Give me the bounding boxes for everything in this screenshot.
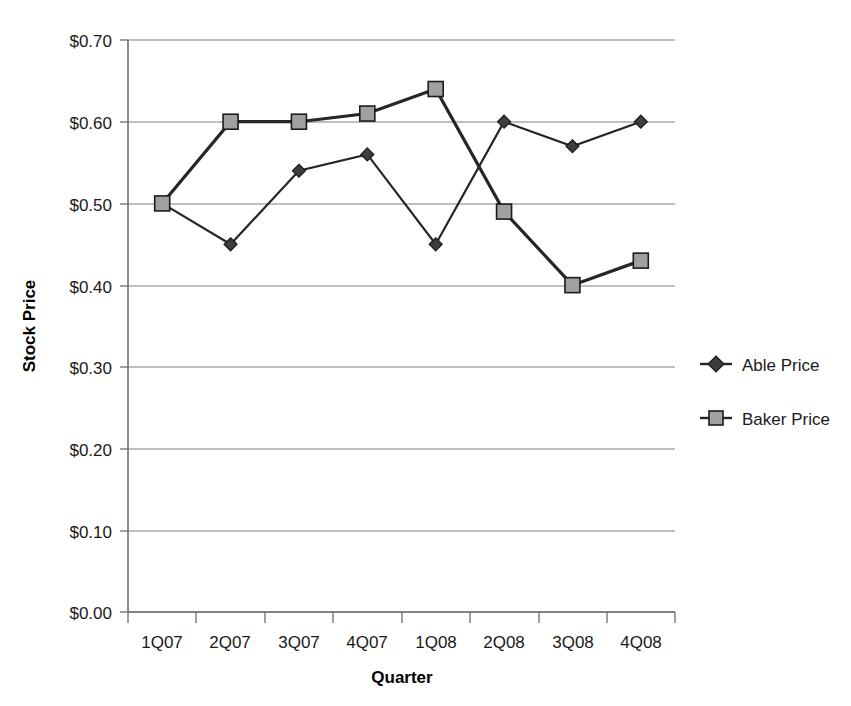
y-tick-label: $0.50 <box>69 196 112 215</box>
y-tick-label: $0.30 <box>69 359 112 378</box>
x-tick-label: 3Q08 <box>552 633 594 652</box>
square-marker-icon <box>291 114 306 129</box>
x-tick-label: 1Q08 <box>415 633 457 652</box>
square-marker-icon <box>428 82 443 97</box>
y-tick-label: $0.10 <box>69 523 112 542</box>
y-tick-label: $0.00 <box>69 604 112 623</box>
square-marker-icon <box>565 278 580 293</box>
legend-label-baker: Baker Price <box>742 410 830 429</box>
line-chart-figure: $0.70 $0.60 $0.50 $0.40 $0.30 $0.20 $0.1… <box>0 0 851 706</box>
y-tick-label: $0.40 <box>69 278 112 297</box>
y-tick-labels: $0.70 $0.60 $0.50 $0.40 $0.30 $0.20 $0.1… <box>69 32 112 623</box>
square-marker-icon <box>360 106 375 121</box>
y-axis-title: Stock Price <box>20 280 39 373</box>
x-tick-label: 2Q07 <box>209 633 251 652</box>
chart-legend: Able Price Baker Price <box>700 356 830 429</box>
x-tick-label: 3Q07 <box>278 633 320 652</box>
square-marker-icon <box>497 204 512 219</box>
square-marker-icon <box>223 114 238 129</box>
x-tick-label: 4Q08 <box>620 633 662 652</box>
chart-canvas: $0.70 $0.60 $0.50 $0.40 $0.30 $0.20 $0.1… <box>0 0 851 706</box>
y-tick-label: $0.20 <box>69 441 112 460</box>
x-tick-label: 2Q08 <box>483 633 525 652</box>
legend-label-able: Able Price <box>742 356 819 375</box>
square-marker-icon <box>709 411 723 425</box>
plot-area-background <box>128 40 675 612</box>
x-axis-title: Quarter <box>371 668 433 687</box>
square-marker-icon <box>633 253 648 268</box>
x-tick-label: 1Q07 <box>141 633 183 652</box>
x-tickmarks <box>128 612 675 623</box>
x-tick-labels: 1Q07 2Q07 3Q07 4Q07 1Q08 2Q08 3Q08 4Q08 <box>141 633 662 652</box>
legend-item-able[interactable]: Able Price <box>700 356 819 375</box>
x-tick-label: 4Q07 <box>346 633 388 652</box>
y-tickmarks <box>120 40 128 612</box>
legend-item-baker[interactable]: Baker Price <box>700 410 830 429</box>
diamond-marker-icon <box>708 356 724 372</box>
square-marker-icon <box>155 196 170 211</box>
y-tick-label: $0.70 <box>69 32 112 51</box>
y-tick-label: $0.60 <box>69 114 112 133</box>
